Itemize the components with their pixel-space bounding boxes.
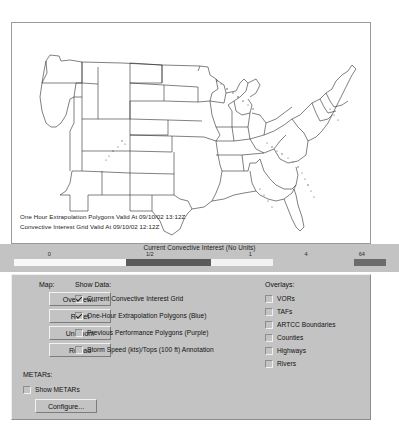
checkbox-label: ARTCC Boundaries: [277, 321, 336, 328]
colorbar-tick: 4: [304, 251, 307, 257]
map-panel[interactable]: One Hour Extrapolation Polygons Valid At…: [11, 22, 371, 244]
colorbar-segment: [354, 259, 386, 266]
checkbox-icon[interactable]: [265, 321, 273, 329]
checkbox-icon[interactable]: [75, 329, 83, 337]
checkbox-vors[interactable]: VORs: [265, 293, 295, 304]
overlays-group-label: Overlays:: [265, 281, 295, 288]
show-data-group-label: Show Data:: [75, 281, 111, 288]
checkbox-counties[interactable]: Counties: [265, 332, 303, 343]
checkbox-one-hour-extrapolation-polygons[interactable]: One-Hour Extrapolation Polygons (Blue): [75, 310, 207, 321]
checkbox-label: Highways: [277, 347, 306, 354]
checkbox-icon[interactable]: [265, 360, 273, 368]
checkbox-icon[interactable]: [265, 347, 273, 355]
controls-panel: Map: Overview... Reset Un-zoom Reload Sh…: [11, 274, 371, 420]
checkbox-current-convective-interest-grid[interactable]: Current Convective Interest Grid: [75, 293, 183, 304]
checkbox-show-metars[interactable]: Show METARs: [23, 384, 80, 395]
colorbar-tick-labels: 01/21464: [14, 251, 386, 258]
colorbar-tick: 64: [359, 251, 365, 257]
colorbar-segment: [211, 259, 272, 266]
checkbox-tafs[interactable]: TAFs: [265, 306, 292, 317]
checkbox-artcc-boundaries[interactable]: ARTCC Boundaries: [265, 319, 336, 330]
checkbox-icon[interactable]: [265, 334, 273, 342]
colorbar-segment: [14, 259, 126, 266]
map-caption-interest-grid: Convective Interest Grid Valid At 09/10/…: [20, 223, 159, 230]
checkbox-icon[interactable]: [75, 346, 83, 354]
checkbox-label: Previous Performance Polygons (Purple): [87, 329, 208, 336]
checkbox-label: Counties: [277, 334, 303, 341]
colorbar-tick: 0: [48, 251, 51, 257]
checkbox-label: Storm Speed (kts)/Tops (100 ft) Annotati…: [87, 346, 214, 353]
colorbar-gradient: [14, 259, 386, 266]
checkbox-icon[interactable]: [265, 308, 273, 316]
colorbar-segment: [126, 259, 212, 266]
checkbox-label: TAFs: [277, 308, 292, 315]
us-states-map: [12, 23, 370, 243]
checkbox-icon[interactable]: [75, 295, 83, 303]
colorbar-tick: 1/2: [146, 251, 154, 257]
colorbar-band: Current Convective Interest (No Units) 0…: [0, 244, 399, 272]
checkbox-rivers[interactable]: Rivers: [265, 358, 296, 369]
checkbox-icon[interactable]: [23, 386, 31, 394]
checkbox-icon[interactable]: [265, 295, 273, 303]
checkbox-icon[interactable]: [75, 312, 83, 320]
colorbar-segment: [273, 259, 355, 266]
checkbox-label: VORs: [277, 295, 295, 302]
checkbox-previous-performance-polygons[interactable]: Previous Performance Polygons (Purple): [75, 327, 208, 338]
metars-group-label: METARs:: [23, 371, 52, 378]
checkbox-label: Rivers: [277, 360, 296, 367]
colorbar-title: Current Convective Interest (No Units): [0, 244, 399, 251]
checkbox-storm-speed-tops-annotation[interactable]: Storm Speed (kts)/Tops (100 ft) Annotati…: [75, 344, 214, 355]
application-window: One Hour Extrapolation Polygons Valid At…: [0, 0, 399, 429]
colorbar-tick: 1: [249, 251, 252, 257]
checkbox-label: One-Hour Extrapolation Polygons (Blue): [87, 312, 207, 319]
configure-button[interactable]: Configure...: [35, 399, 97, 413]
checkbox-highways[interactable]: Highways: [265, 345, 306, 356]
map-group-label: Map:: [39, 281, 55, 288]
map-caption-extrapolation: One Hour Extrapolation Polygons Valid At…: [20, 213, 185, 220]
checkbox-label: Show METARs: [35, 386, 80, 393]
checkbox-label: Current Convective Interest Grid: [87, 295, 183, 302]
